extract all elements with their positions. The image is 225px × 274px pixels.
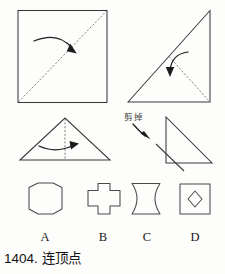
option-shape-b xyxy=(88,184,120,215)
option-shape-c xyxy=(132,184,160,215)
option-shape-d xyxy=(180,184,210,214)
cut-pointer-arrow-head xyxy=(141,131,151,140)
caption-number: 1404. xyxy=(4,251,38,266)
square-diagonal-fold-line xyxy=(19,11,107,102)
option-shape-a xyxy=(29,183,62,214)
step-3-isosceles-fold xyxy=(20,118,110,160)
cut-label: 剪掉 xyxy=(124,113,144,122)
step-2-triangle-fold xyxy=(128,11,210,103)
option-label-a[interactable]: A xyxy=(38,231,52,244)
step-1-square-fold xyxy=(18,11,107,103)
puzzle-figure-page: 剪掉 A B C D 1404. 连顶点 xyxy=(0,0,225,274)
triangle-outline-step4 xyxy=(166,117,212,163)
option-label-d[interactable]: D xyxy=(188,231,202,244)
fold-arrow-head-3 xyxy=(70,141,80,150)
square-frame-icon xyxy=(180,184,210,214)
concave-four-point-star-icon xyxy=(132,184,160,215)
caption-text: 连顶点 xyxy=(42,250,81,266)
fold-arrow-curve-1 xyxy=(34,37,72,48)
caption: 1404. 连顶点 xyxy=(4,252,81,266)
fold-arrow-head-1 xyxy=(67,44,77,54)
diamond-hole-icon xyxy=(188,191,202,207)
cut-line xyxy=(156,144,184,171)
fold-arrow-curve-3 xyxy=(39,145,74,150)
fold-arrow-head-2 xyxy=(166,67,174,77)
step-4-cut-corner xyxy=(133,117,212,171)
option-label-b[interactable]: B xyxy=(96,231,110,244)
octagon-cut-corner-square-icon xyxy=(29,183,62,214)
triangle-fold-line-step2 xyxy=(169,57,210,103)
plus-cross-icon xyxy=(88,184,120,215)
option-label-c[interactable]: C xyxy=(140,231,154,244)
